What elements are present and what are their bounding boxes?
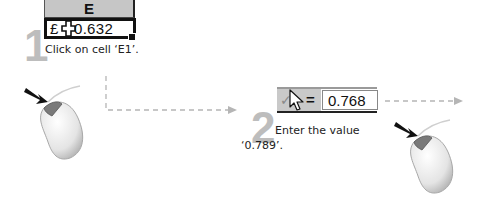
dashed-connector-arrow [100,74,245,118]
formula-input[interactable]: 0.768 [322,90,378,110]
plus-cross-cursor-icon [61,20,76,37]
fill-handle[interactable] [128,33,136,41]
formula-bar: ✓ = 0.768 [277,87,377,113]
cell-value: 0.632 [74,21,113,36]
cell-e1[interactable]: £ 0.632 [44,18,136,39]
mouse-left-click-icon [18,84,98,164]
arrow-pointer-icon [288,89,306,113]
mouse-left-click-icon [388,114,468,198]
dashed-connector-arrow-2 [382,94,472,108]
cell-currency-symbol: £ [50,21,58,36]
step2-instruction-line2: ‘0.789’. [241,139,283,153]
step1-instruction: Click on cell ‘E1’. [45,43,139,57]
column-header-e[interactable]: E [44,0,135,18]
equals-sign[interactable]: = [306,91,315,109]
step2-instruction-line1: Enter the value [275,124,360,138]
